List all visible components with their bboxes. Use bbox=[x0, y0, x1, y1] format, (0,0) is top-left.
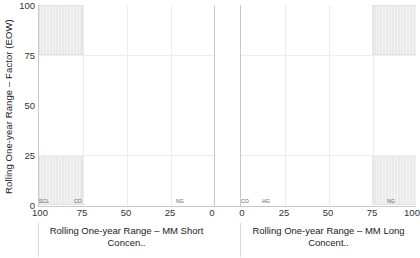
x-tick-long-0: 0 bbox=[239, 207, 244, 218]
gridline-x-75-right bbox=[373, 5, 374, 206]
y-tick-25: 25 bbox=[24, 150, 35, 161]
shade-top-right-band bbox=[372, 5, 416, 55]
point-label-co-long: CO bbox=[241, 198, 249, 204]
gridline-x-50-right bbox=[329, 5, 330, 206]
panel-mm-short: HSCL CO NG bbox=[38, 5, 214, 207]
x-tick-long-75: 75 bbox=[367, 207, 378, 218]
panel-mm-long-plot: CO HG NG bbox=[241, 5, 416, 206]
point-label-ng-short: NG bbox=[176, 198, 184, 204]
x-tick-short-0: 0 bbox=[209, 207, 214, 218]
panel-mm-short-plot: HSCL CO NG bbox=[39, 5, 214, 206]
x-axis-ticks-mm-short: 100 75 50 25 0 bbox=[38, 207, 214, 223]
x-tick-short-50: 50 bbox=[121, 207, 132, 218]
y-axis-title-text: Rolling One-year Range – Factor (EOW) bbox=[3, 19, 14, 194]
gridline-x-75 bbox=[83, 5, 84, 206]
facet-strip-mm-long: Rolling One-year Range – MM Long Concent… bbox=[240, 223, 416, 257]
facet-strip-mm-short: Rolling One-year Range – MM Short Concen… bbox=[38, 223, 214, 257]
x-tick-long-25: 25 bbox=[279, 207, 290, 218]
facet-strip-labels: Rolling One-year Range – MM Short Concen… bbox=[38, 223, 416, 257]
x-tick-long-100: 100 bbox=[404, 207, 420, 218]
x-tick-short-25: 25 bbox=[165, 207, 176, 218]
facet-panels: HSCL CO NG CO HG NG bbox=[38, 5, 416, 207]
point-label-hscl: HSCL bbox=[38, 198, 49, 204]
x-tick-short-100: 100 bbox=[32, 207, 48, 218]
point-label-ng-long: NG bbox=[387, 198, 395, 204]
x-tick-long-50: 50 bbox=[323, 207, 334, 218]
y-tick-75: 75 bbox=[24, 50, 35, 61]
x-axis-title-mm-short: Rolling One-year Range – MM Short Concen… bbox=[41, 225, 213, 249]
y-tick-50: 50 bbox=[24, 100, 35, 111]
x-axis-title-mm-long: Rolling One-year Range – MM Long Concent… bbox=[243, 225, 415, 249]
y-axis-title: Rolling One-year Range – Factor (EOW) bbox=[0, 0, 16, 212]
y-axis-tick-labels: 100 75 50 25 0 bbox=[16, 0, 38, 212]
point-label-hg-long: HG bbox=[262, 198, 270, 204]
panel-mm-long: CO HG NG bbox=[240, 5, 416, 207]
panel-gutter bbox=[214, 5, 240, 207]
gridline-x-50 bbox=[127, 5, 128, 206]
x-tick-short-75: 75 bbox=[77, 207, 88, 218]
gridline-x-25-right bbox=[285, 5, 286, 206]
x-axis-ticks-mm-long: 0 25 50 75 100 bbox=[240, 207, 416, 223]
y-tick-100: 100 bbox=[19, 0, 35, 11]
gridline-x-25 bbox=[171, 5, 172, 206]
point-label-co-short: CO bbox=[74, 198, 82, 204]
facet-strip-gutter bbox=[214, 223, 240, 257]
shade-top-left-band bbox=[39, 5, 83, 55]
